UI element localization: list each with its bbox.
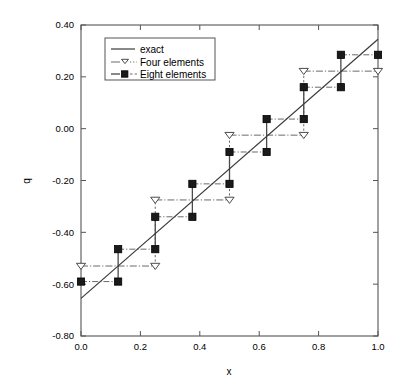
data-point-square	[374, 51, 381, 58]
data-point-square	[152, 213, 159, 220]
data-point-square	[77, 278, 84, 285]
x-tick-label: 1.0	[371, 341, 384, 352]
data-point-square	[263, 148, 270, 155]
chart-figure: 0.00.20.40.60.81.0 0.400.200.00-0.20-0.4…	[0, 0, 402, 388]
x-tick-label: 0.6	[253, 341, 266, 352]
y-axis-title: q	[21, 178, 32, 184]
x-axis-title: x	[227, 366, 232, 377]
legend-label-eight-elements: Eight elements	[140, 69, 206, 80]
data-point-square	[337, 51, 344, 58]
data-point-square	[115, 246, 122, 253]
legend-marker-square-icon	[122, 71, 128, 77]
y-tick-label: -0.60	[52, 279, 74, 290]
y-tick-label: -0.80	[52, 330, 74, 341]
y-axis-tick-labels: 0.400.200.00-0.20-0.40-0.60-0.80	[52, 19, 74, 341]
data-point-square	[152, 246, 159, 253]
y-tick-label: -0.20	[52, 175, 74, 186]
data-point-square	[226, 148, 233, 155]
y-tick-label: 0.00	[56, 123, 75, 134]
data-point-square	[337, 84, 344, 91]
data-point-square	[300, 84, 307, 91]
y-tick-label: 0.20	[56, 71, 75, 82]
legend-label-exact: exact	[140, 44, 164, 55]
data-point-square	[189, 213, 196, 220]
chart-canvas: 0.00.20.40.60.81.0 0.400.200.00-0.20-0.4…	[0, 0, 402, 388]
y-tick-label: 0.40	[56, 19, 75, 30]
data-point-square	[263, 115, 270, 122]
y-tick-label: -0.40	[52, 227, 74, 238]
x-tick-label: 0.0	[74, 341, 87, 352]
x-axis-tick-labels: 0.00.20.40.60.81.0	[74, 341, 384, 352]
data-point-square	[115, 278, 122, 285]
x-tick-label: 0.4	[193, 341, 206, 352]
x-tick-label: 0.8	[312, 341, 325, 352]
chart-legend: exact Four elements Eight elements	[105, 38, 215, 80]
data-point-square	[300, 115, 307, 122]
legend-label-four-elements: Four elements	[140, 57, 204, 68]
data-point-square	[189, 180, 196, 187]
x-tick-label: 0.2	[134, 341, 147, 352]
data-point-square	[226, 180, 233, 187]
